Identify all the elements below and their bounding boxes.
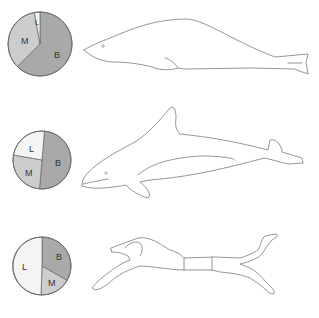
pie-chart-3: B M L bbox=[0, 210, 319, 318]
dolphin-outline-icon bbox=[82, 107, 303, 198]
pie-label-l: L bbox=[35, 19, 39, 26]
pie-label-m: M bbox=[25, 168, 33, 178]
pie-label-m: M bbox=[21, 36, 29, 46]
dugong-outline-icon bbox=[84, 19, 308, 74]
row-1: B M L bbox=[0, 0, 319, 100]
pie-slice-l bbox=[13, 237, 42, 295]
pie-label-b: B bbox=[55, 158, 61, 168]
pie-label-b: B bbox=[54, 50, 60, 60]
pie-chart-1: B M L bbox=[0, 0, 319, 100]
pie-label-l: L bbox=[22, 262, 27, 272]
pie-label-m: M bbox=[48, 278, 56, 288]
swimmer-outline-icon bbox=[92, 234, 277, 294]
row-3: B M L bbox=[0, 210, 319, 318]
pie-label-l: L bbox=[29, 144, 34, 154]
pie-label-b: B bbox=[56, 252, 62, 262]
row-2: B M L bbox=[0, 100, 319, 210]
pie-chart-2: B M L bbox=[0, 100, 319, 210]
